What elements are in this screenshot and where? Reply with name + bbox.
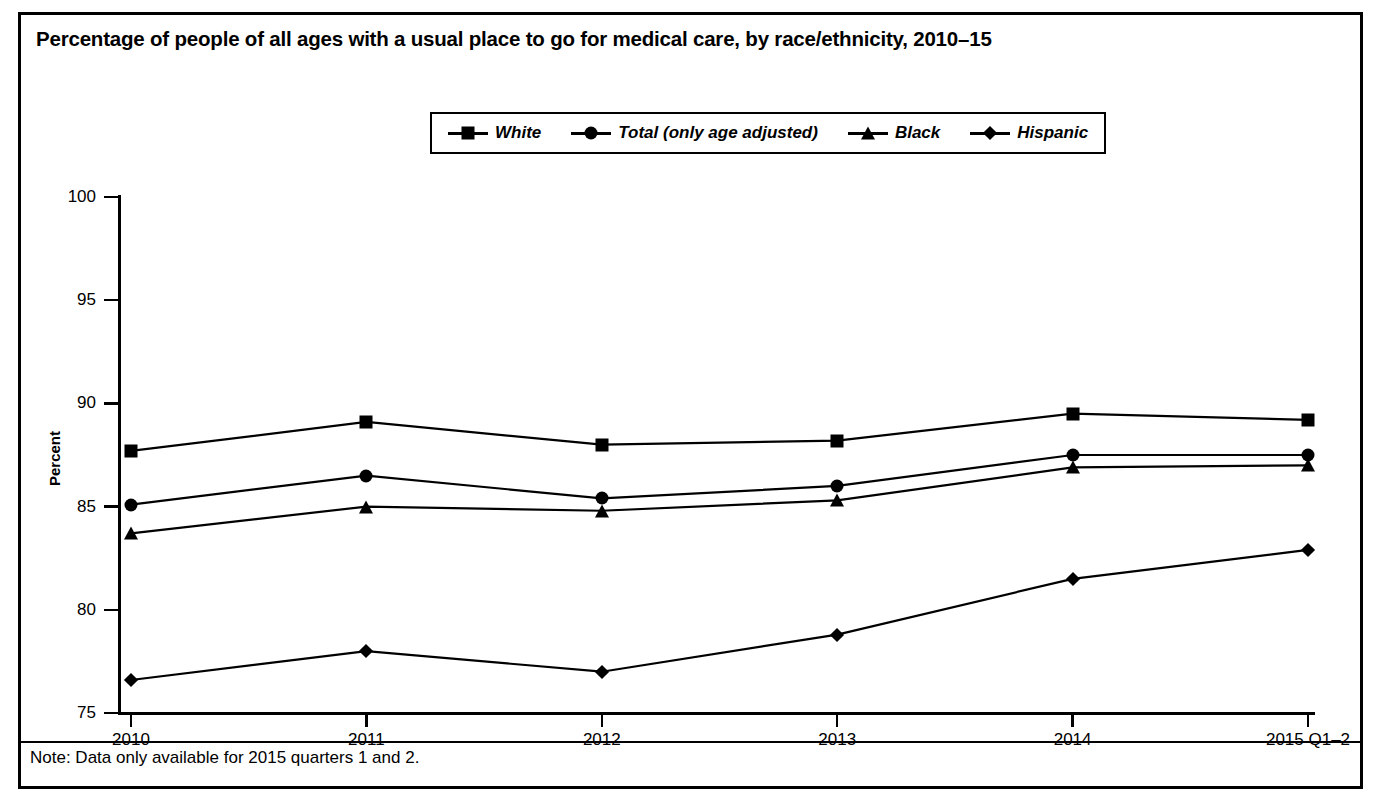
triangle-marker-icon [124, 527, 138, 540]
square-marker-icon [125, 444, 138, 457]
triangle-marker-icon [1066, 461, 1080, 474]
chart-note: Note: Data only available for 2015 quart… [30, 748, 419, 768]
circle-marker-icon [831, 479, 844, 492]
triangle-marker-icon [359, 500, 373, 513]
chart-figure: Percentage of people of all ages with a … [0, 0, 1378, 801]
triangle-marker-icon [830, 494, 844, 507]
series-line-hispanic [131, 550, 1308, 680]
square-marker-icon [360, 415, 373, 428]
plot-area: Percent 75808590951002010201120122013201… [0, 0, 1378, 801]
circle-marker-icon [1066, 449, 1079, 462]
square-marker-icon [831, 434, 844, 447]
triangle-marker-icon [1301, 459, 1315, 472]
series-line-white [131, 414, 1308, 451]
series-line-total [131, 455, 1308, 505]
circle-marker-icon [360, 469, 373, 482]
circle-marker-icon [595, 492, 608, 505]
note-separator [21, 741, 1360, 743]
square-marker-icon [1302, 413, 1315, 426]
square-marker-icon [1066, 407, 1079, 420]
circle-marker-icon [125, 498, 138, 511]
series-line-black [131, 465, 1308, 533]
triangle-marker-icon [595, 504, 609, 517]
square-marker-icon [595, 438, 608, 451]
series-lines [0, 0, 1378, 801]
